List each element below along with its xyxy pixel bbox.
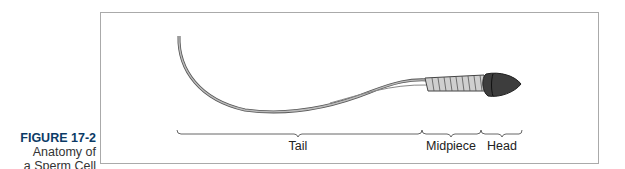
midpiece-illustration	[425, 75, 486, 91]
head-illustration	[483, 73, 521, 96]
label-tail: Tail	[289, 139, 308, 153]
label-midpiece: Midpiece	[426, 139, 476, 153]
label-head: Head	[487, 139, 517, 153]
sperm-cell-illustration	[0, 0, 625, 169]
tail-illustration	[179, 36, 428, 112]
segment-braces	[177, 130, 522, 137]
